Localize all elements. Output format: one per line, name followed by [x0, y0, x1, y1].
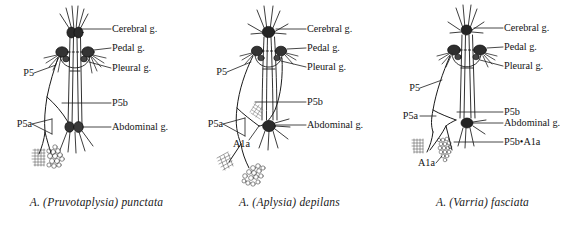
- hatched-patch-left: [32, 149, 45, 166]
- label-a1a: A1a: [233, 139, 250, 149]
- anatomy-figure: Cerebral g. Pedal g. Pleural g. P5b Abdo…: [0, 0, 580, 226]
- label-p5b: P5b: [307, 97, 323, 107]
- label-p5b: P5b: [112, 98, 128, 108]
- panel-right-drawing: [386, 0, 579, 190]
- abdominal-ganglion-middle: [263, 120, 276, 131]
- leader-lines-right-side: [420, 80, 442, 163]
- panel-aplysia-depilans: Cerebral g. Pedal g. Pleural g. P5b Abdo…: [193, 0, 386, 226]
- label-a1a: A1a: [418, 158, 435, 168]
- leader-lines-middle: [249, 29, 306, 140]
- nerve-p5-right: [432, 56, 451, 132]
- label-pleural-g: Pleural g.: [307, 62, 346, 72]
- leader-a1a-middle: [249, 126, 259, 140]
- label-pleural-g: Pleural g.: [504, 61, 543, 71]
- leader-p5a-b-left: [32, 119, 52, 124]
- nerve-p5a-right: [427, 132, 433, 152]
- connective-trunks-middle: [262, 37, 277, 120]
- panel-pruvotaplysia-punctata: Cerebral g. Pedal g. Pleural g. P5b Abdo…: [0, 0, 193, 226]
- cerebral-ganglion-right: [461, 25, 472, 35]
- pedal-nerve-fan-middle: [240, 53, 298, 64]
- panel-left-drawing: [0, 0, 193, 190]
- leader-pedal-left: [94, 48, 111, 50]
- leader-p5a-a-left: [32, 124, 52, 134]
- leader-pleural-middle: [281, 61, 306, 67]
- abdominal-ganglion-left: [65, 122, 83, 133]
- caption-left-suffix: ) punctata: [114, 196, 163, 208]
- caption-right: A. (Varria) fasciata: [386, 196, 579, 208]
- nerve-p5b-right: [433, 110, 456, 120]
- caption-middle-subgenus: Aplysia: [256, 196, 292, 208]
- cerebral-nerves-left: [60, 6, 88, 31]
- pleural-ganglia-right: [455, 54, 479, 60]
- label-pedal-g: Pedal g.: [504, 42, 537, 52]
- leader-p5b-pleural-right: [480, 60, 503, 66]
- pleural-ganglia-middle: [258, 55, 280, 61]
- label-cerebral-g: Cerebral g.: [504, 23, 549, 33]
- label-abdominal-g: Abdominal g.: [504, 118, 560, 128]
- nerve-p5b-left: [47, 97, 68, 122]
- hatched-patch-a1a-middle: [250, 103, 263, 119]
- nerve-p5a-branch-left: [45, 132, 51, 153]
- leader-a1a-right: [436, 156, 442, 163]
- leader-pedal-middle: [287, 48, 306, 49]
- abdominal-ganglion-right: [461, 118, 473, 128]
- label-p5a: P5a: [195, 119, 223, 129]
- label-p5a: P5a: [4, 119, 32, 129]
- pedal-ganglia-right: [448, 45, 487, 55]
- nerve-p5-left: [45, 58, 58, 132]
- hatched-patch-middle: [217, 152, 233, 170]
- caption-right-subgenus: Varria: [453, 196, 484, 208]
- label-abdominal-g: Abdominal g.: [307, 120, 363, 130]
- leader-pedal-right: [487, 47, 503, 48]
- caption-middle-suffix: ) depilans: [292, 196, 340, 208]
- abdominal-nerve-fan-left: [60, 131, 93, 153]
- pedal-ganglia-middle: [251, 46, 286, 56]
- panel-middle-drawing: [193, 0, 386, 190]
- leader-p5a-a-middle: [223, 124, 245, 136]
- caption-left: A. (Pruvotaplysia) punctata: [0, 196, 193, 208]
- label-pleural-g: Pleural g.: [112, 63, 151, 73]
- connective-trunks-right: [460, 35, 475, 118]
- cerebral-ganglion-middle: [262, 26, 274, 37]
- hatched-patch-right: [412, 139, 423, 153]
- nerve-p5b-a1a-right: [446, 120, 456, 126]
- label-pedal-g: Pedal g.: [112, 43, 145, 53]
- panel-varria-fasciata: Cerebral g. Pedal g. Pleural g. P5b Abdo…: [386, 0, 579, 226]
- caption-left-subgenus: Pruvotaplysia: [47, 196, 114, 208]
- circle-cluster-middle: [242, 164, 265, 187]
- pleural-ganglia-left: [63, 56, 88, 62]
- label-p5: P5: [398, 83, 420, 93]
- caption-middle-prefix: A. (: [239, 196, 256, 208]
- label-pedal-g: Pedal g.: [307, 43, 340, 53]
- pedal-ganglia-left: [56, 47, 94, 57]
- caption-left-prefix: A. (: [30, 196, 47, 208]
- caption-right-suffix: ) fasciata: [484, 196, 529, 208]
- label-p5b-a1a: P5b•A1a: [504, 137, 540, 147]
- label-cerebral-g: Cerebral g.: [307, 24, 352, 34]
- leader-p5a-b-middle: [223, 118, 245, 124]
- nerve-a1a-middle: [237, 108, 259, 126]
- label-p5b: P5b: [504, 107, 520, 117]
- connective-trunks-left: [68, 37, 82, 126]
- label-p5: P5: [12, 68, 34, 78]
- label-p5: P5: [205, 67, 227, 77]
- caption-middle: A. (Aplysia) depilans: [193, 196, 386, 208]
- label-abdominal-g: Abdominal g.: [112, 122, 168, 132]
- caption-right-prefix: A. (: [436, 196, 453, 208]
- label-cerebral-g: Cerebral g.: [112, 24, 157, 34]
- leader-p5-left: [34, 65, 56, 73]
- label-p5a: P5a: [390, 111, 418, 121]
- leader-pleural-left: [89, 62, 111, 68]
